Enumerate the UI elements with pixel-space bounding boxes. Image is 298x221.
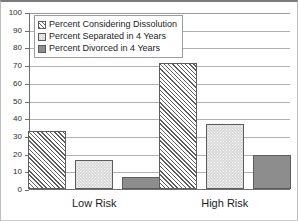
legend-swatch-icon xyxy=(38,45,46,53)
x-axis-label-0: Low Risk xyxy=(72,198,117,209)
bar xyxy=(28,131,66,189)
legend-item: Percent Divorced in 4 Years xyxy=(38,43,177,54)
y-axis-tick-label: 100 xyxy=(9,9,22,17)
legend-swatch-icon xyxy=(38,21,46,29)
y-axis-tick-label: 80 xyxy=(13,44,22,52)
y-axis-tick-label: 40 xyxy=(13,115,22,123)
bar xyxy=(206,124,244,189)
y-axis-tick-label: 60 xyxy=(13,80,22,88)
y-axis-tick-labels: 0102030405060708090100 xyxy=(1,13,27,190)
bar xyxy=(75,160,113,189)
y-axis-tick-label: 0 xyxy=(18,186,22,194)
x-axis-category-labels: Low RiskHigh Risk xyxy=(29,198,290,218)
legend-label: Percent Divorced in 4 Years xyxy=(49,44,160,53)
y-axis-tick-label: 20 xyxy=(13,151,22,159)
chart-legend: Percent Considering DissolutionPercent S… xyxy=(34,15,183,58)
bar xyxy=(122,177,160,189)
y-axis-tick-label: 30 xyxy=(13,133,22,141)
legend-item: Percent Considering Dissolution xyxy=(38,19,177,30)
y-axis-tick-label: 90 xyxy=(13,27,22,35)
legend-label: Percent Considering Dissolution xyxy=(49,20,177,29)
bar xyxy=(253,155,291,189)
y-axis-tick-label: 10 xyxy=(13,168,22,176)
bar xyxy=(159,63,197,189)
y-axis-tick-mark xyxy=(25,190,29,191)
y-axis-tick-label: 70 xyxy=(13,62,22,70)
bar-chart-figure: 0102030405060708090100 Low RiskHigh Risk… xyxy=(0,0,298,221)
legend-item: Percent Separated in 4 Years xyxy=(38,31,177,42)
x-axis-label-1: High Risk xyxy=(201,198,248,209)
y-axis-tick-label: 50 xyxy=(13,98,22,106)
legend-label: Percent Separated in 4 Years xyxy=(49,32,166,41)
legend-swatch-icon xyxy=(38,33,46,41)
